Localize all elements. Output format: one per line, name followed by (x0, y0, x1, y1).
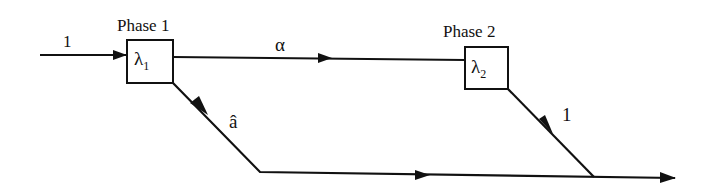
edge-input-to-phase1 (40, 50, 127, 60)
phase-2-rate: λ2 (471, 57, 486, 80)
edge-phase2-to-exit (508, 89, 594, 177)
phase-2-title: Phase 2 (443, 23, 495, 40)
phase-2-exit-label: 1 (562, 105, 572, 124)
phase-1-title: Phase 1 (117, 17, 169, 34)
phase-1-rate: λ1 (134, 49, 149, 72)
diagram-canvas (0, 0, 708, 196)
input-edge-label: 1 (63, 33, 72, 50)
edge-phase1-to-exit (173, 83, 675, 180)
a-hat-edge-label: â (229, 112, 237, 131)
edge-phase1-to-phase2 (173, 53, 465, 63)
output-arrowhead (660, 172, 676, 183)
alpha-edge-label: α (275, 35, 285, 54)
